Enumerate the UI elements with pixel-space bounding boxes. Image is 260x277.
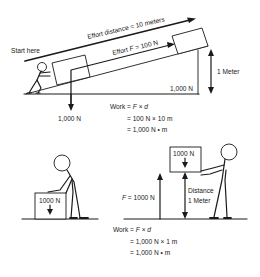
effort-distance-arrow <box>25 18 196 62</box>
work-op: × <box>137 103 145 110</box>
lift-after-scenario: 1000 N F = 1000 N Distance 1 Meter <box>122 144 247 219</box>
lift-work-line1: Work = F × d <box>113 226 151 233</box>
effort-prefix: Effort <box>112 45 131 56</box>
lift-before-scenario: 1000 N <box>22 155 98 219</box>
ramp-work-line2: = 100 N × 10 m <box>127 115 173 122</box>
lift-work-formula: Work = F × d = 1,000 N × 1 m = 1,000 N •… <box>113 226 178 256</box>
start-here-label: Start here <box>11 47 40 54</box>
upward-force-arrow <box>157 173 163 219</box>
distance-label-line2: 1 Meter <box>188 197 211 204</box>
lifted-box-label: 1000 N <box>173 150 195 157</box>
ramp-weight-label: 1,000 N <box>170 85 193 92</box>
force-suffix: = 1000 N <box>126 194 155 201</box>
distance-label-line1: Distance <box>188 187 214 194</box>
ramp-work-line3: = 1,000 N • m <box>127 126 168 133</box>
work-prefix: Work = <box>113 226 136 233</box>
work-d: d <box>147 226 151 233</box>
distance-arrow <box>182 172 188 219</box>
lift-work-line2: = 1,000 N × 1 m <box>130 238 178 245</box>
work-d: d <box>144 103 148 110</box>
work-diagram: Effort distance = 10 meters Start here E… <box>0 0 260 277</box>
height-label: 1 Meter <box>217 68 240 75</box>
ramp-work-line1: Work = F × d <box>110 103 148 110</box>
work-prefix: Work = <box>110 103 133 110</box>
height-arrow <box>208 49 214 94</box>
upward-force-label: F = 1000 N <box>122 194 155 201</box>
standing-person-figure <box>201 144 237 218</box>
downward-force-label: 1,000 N <box>58 115 81 122</box>
work-op: × <box>140 226 148 233</box>
box-on-ground-label: 1000 N <box>39 197 61 204</box>
ramp-scenario: Effort distance = 10 meters Start here E… <box>11 15 240 133</box>
downward-force-arrow <box>68 94 74 111</box>
lift-work-line3: = 1,000 N • m <box>130 249 171 256</box>
box-on-ramp-upper <box>172 28 208 54</box>
ramp-work-formula: Work = F × d = 100 N × 10 m = 1,000 N • … <box>110 103 173 133</box>
